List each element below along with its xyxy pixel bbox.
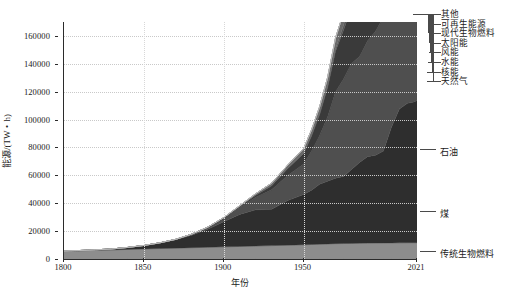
- gridline: [64, 36, 417, 37]
- gridline: [64, 147, 417, 148]
- y-tick-mark: [55, 259, 58, 260]
- x-tick-mark: [303, 258, 304, 262]
- legend-bracket-spine: [429, 14, 430, 43]
- legend-bracket-stub: [413, 14, 429, 15]
- legend-leader-line: [427, 72, 441, 73]
- series-label-coal: 煤: [440, 207, 449, 220]
- y-tick-label: 80000: [28, 142, 50, 152]
- x-tick-label: 1800: [55, 262, 72, 272]
- x-tick-mark: [223, 258, 224, 262]
- x-tick-label: 1850: [134, 262, 151, 272]
- legend-bracket-spine: [431, 14, 432, 62]
- x-axis-tick-labels: 18001850190019502021: [63, 262, 417, 276]
- y-tick-mark: [55, 147, 58, 148]
- y-tick-mark: [55, 120, 58, 121]
- y-tick-mark: [55, 231, 58, 232]
- legend-bracket-spine: [432, 14, 433, 72]
- gridline-vertical: [144, 22, 145, 259]
- y-tick-label: 120000: [24, 87, 50, 97]
- legend-item-label: 现代生物燃料: [441, 29, 495, 38]
- legend-item-label: 其他: [441, 10, 459, 19]
- legend-item-label: 水能: [441, 58, 459, 67]
- legend-bracket-group: 其他可再生能源现代生物燃料太阳能风能水能核能天然气: [419, 4, 519, 90]
- legend-bracket-spine: [428, 14, 429, 33]
- y-tick-label: 100000: [24, 115, 50, 125]
- stacked-area-series: [64, 22, 417, 259]
- series-label-traditional-biofuel: 传统生物燃料: [440, 247, 494, 260]
- y-tick-mark: [55, 36, 58, 37]
- x-axis-title: 年份: [63, 276, 417, 289]
- legend-item-label: 天然气: [441, 77, 468, 86]
- leader-line-coal: [420, 211, 436, 212]
- y-axis-tick-labels: 0200004000060000800001000001200001400001…: [0, 22, 58, 260]
- series-label-oil: 石油: [440, 145, 458, 158]
- x-tick-mark: [143, 258, 144, 262]
- y-tick-label: 140000: [24, 59, 50, 69]
- y-tick-mark: [55, 175, 58, 176]
- legend-bracket-spine: [433, 14, 434, 81]
- gridline: [64, 175, 417, 176]
- gridline-vertical: [224, 22, 225, 259]
- x-tick-label: 2021: [408, 262, 425, 272]
- gridline: [64, 120, 417, 121]
- plot-area: [63, 22, 417, 260]
- legend-item-label: 可再生能源: [441, 20, 486, 29]
- legend-bracket-spine: [430, 14, 431, 52]
- gridline-vertical: [304, 22, 305, 259]
- y-tick-label: 0: [46, 254, 50, 264]
- gridline: [64, 231, 417, 232]
- leader-line-traditional-biofuel: [420, 251, 436, 252]
- gridline: [64, 92, 417, 93]
- y-tick-label: 160000: [24, 31, 50, 41]
- y-tick-label: 60000: [28, 170, 50, 180]
- legend-leader-line: [427, 81, 441, 82]
- y-tick-label: 20000: [28, 226, 50, 236]
- y-tick-mark: [55, 203, 58, 204]
- y-tick-mark: [55, 92, 58, 93]
- legend-item-label: 风能: [441, 48, 459, 57]
- y-tick-label: 40000: [28, 198, 50, 208]
- leader-line-oil: [420, 149, 436, 150]
- x-tick-label: 1900: [214, 262, 231, 272]
- gridline: [64, 203, 417, 204]
- energy-stacked-area-chart: 能源/(TW・h) 020000400006000080000100000120…: [0, 0, 519, 304]
- x-tick-mark: [416, 258, 417, 262]
- legend-leader-line: [428, 62, 441, 63]
- x-tick-mark: [63, 258, 64, 262]
- gridline: [64, 64, 417, 65]
- legend-leader-line: [433, 14, 441, 15]
- legend-item-label: 核能: [441, 68, 459, 77]
- x-tick-label: 1950: [294, 262, 311, 272]
- y-tick-mark: [55, 64, 58, 65]
